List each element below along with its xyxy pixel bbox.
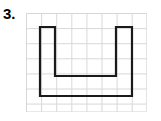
grid-figure-container xyxy=(26,13,147,112)
grid-figure-svg xyxy=(26,13,147,112)
worksheet-page: 3. xyxy=(0,0,161,121)
problem-number-label: 3. xyxy=(3,5,16,22)
